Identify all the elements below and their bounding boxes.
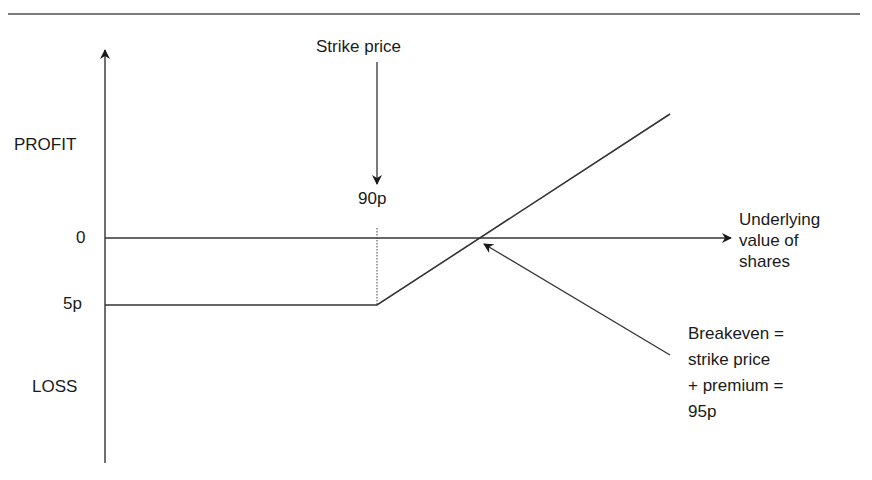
payoff-line	[105, 114, 670, 305]
breakeven-arrow	[484, 244, 670, 355]
zero-tick-label: 0	[76, 228, 85, 248]
strike-price-label: Strike price	[316, 37, 401, 57]
x-axis-label: Underlying value of shares	[739, 209, 820, 272]
loss-label: LOSS	[32, 377, 77, 397]
breakeven-line4: 95p	[688, 399, 784, 425]
x-axis-label-line2: value of	[739, 230, 820, 251]
premium-tick-label: 5p	[63, 294, 82, 314]
x-axis-label-line1: Underlying	[739, 209, 820, 230]
profit-label: PROFIT	[14, 135, 76, 155]
breakeven-line2: strike price	[688, 347, 784, 373]
strike-value-label: 90p	[358, 189, 386, 209]
x-axis-label-line3: shares	[739, 251, 820, 272]
breakeven-annotation: Breakeven = strike price + premium = 95p	[688, 321, 784, 425]
breakeven-line3: + premium =	[688, 373, 784, 399]
breakeven-line1: Breakeven =	[688, 321, 784, 347]
